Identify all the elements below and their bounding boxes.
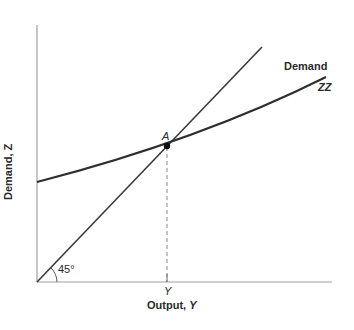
y-axis-title: Demand, Z [2, 144, 14, 200]
curve-symbol-label: ZZ [318, 81, 331, 93]
x-axis-title-var: Y [189, 299, 196, 311]
equilibrium-diagram: A 45° Y Demand ZZ Output, Y Demand, Z [0, 0, 354, 330]
angle-arc [51, 268, 57, 282]
curve-name-label: Demand [284, 60, 327, 72]
point-a-label: A [162, 130, 169, 142]
x-axis-title-text: Output, [147, 299, 189, 311]
demand-curve-zz [37, 77, 326, 182]
angle-label: 45° [58, 263, 75, 275]
equilibrium-point [164, 143, 170, 149]
x-axis-title: Output, Y [147, 299, 197, 311]
diagram-canvas [0, 0, 354, 330]
x-tick-label: Y [164, 285, 171, 297]
forty-five-degree-line [37, 47, 262, 282]
